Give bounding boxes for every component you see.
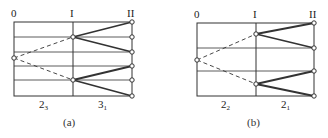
panel-b-dashed-ray-lower — [197, 60, 256, 84]
panel-a-label-II: II — [127, 8, 134, 19]
panel-a-segment-label-1: 23 — [39, 99, 48, 114]
panel-b-segment-label-1: 22 — [221, 99, 230, 114]
panel-b-diagram — [195, 21, 316, 98]
panel-a-label-I: I — [70, 8, 74, 19]
panel-a-diagram — [12, 20, 134, 98]
panel-b-label-0: 0 — [194, 9, 200, 20]
panel-a-dashed-ray-upper — [14, 37, 73, 58]
panel-a-segment-label-2: 31 — [98, 99, 107, 114]
panel-b-label-I: I — [253, 9, 257, 20]
panel-a-caption: (a) — [63, 116, 75, 128]
panel-a-label-0: 0 — [11, 8, 17, 19]
panel-b-segment-label-2: 21 — [281, 99, 290, 114]
panel-b-label-II: II — [309, 9, 316, 20]
panel-a-dashed-ray-lower — [14, 58, 73, 80]
structure-network-diagram — [0, 0, 328, 138]
panel-b-dashed-ray-upper — [197, 34, 256, 60]
panel-b-caption: (b) — [247, 116, 260, 128]
